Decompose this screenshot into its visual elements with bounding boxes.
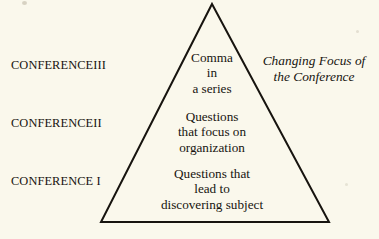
tier-line: Comma (162, 50, 262, 65)
tier-line: a series (162, 81, 262, 96)
stage-label-conference-i: CONFERENCE I (11, 174, 101, 189)
stage-label-conference-ii: CONFERENCEII (11, 116, 102, 131)
stage-label-conference-iii: CONFERENCEIII (11, 58, 106, 73)
diagram-caption: Changing Focus of the Conference (252, 53, 376, 85)
tier-line: discovering subject (131, 197, 293, 212)
tier-text-top: Comma in a series (162, 50, 262, 96)
conference-pyramid-diagram: CONFERENCEIII CONFERENCEII CONFERENCE I … (0, 0, 379, 239)
tier-line: Questions that (131, 166, 293, 181)
caption-line: Changing Focus of (252, 53, 376, 69)
tier-line: organization (145, 140, 279, 155)
tier-text-middle: Questions that focus on organization (145, 109, 279, 155)
tier-line: Questions (145, 109, 279, 124)
caption-line: the Conference (252, 69, 376, 85)
tier-text-bottom: Questions that lead to discovering subje… (131, 166, 293, 212)
tier-line: that focus on (145, 124, 279, 139)
tier-line: in (162, 65, 262, 80)
tier-line: lead to (131, 181, 293, 196)
